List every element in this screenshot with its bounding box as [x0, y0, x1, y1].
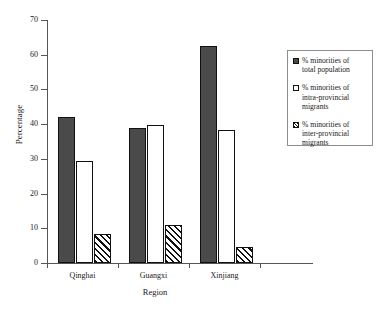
bar-xinjiang-series-3 [236, 247, 253, 263]
x-tick [118, 263, 119, 268]
y-tick-label: 40 [12, 120, 38, 128]
legend-item-intra-provincial: % minorities of intra-provincial migrant… [293, 83, 368, 111]
bar-qinghai-series-3 [94, 234, 111, 263]
x-tick-label: Qinghai [48, 271, 118, 280]
bar-xinjiang-series-1 [200, 46, 217, 263]
legend-swatch-solid-icon [293, 58, 299, 64]
legend-label: % minorities of inter-provincial migrant… [302, 120, 349, 148]
bar-qinghai-series-2 [76, 161, 93, 263]
legend-swatch-open-icon [293, 85, 299, 91]
legend-label: % minorities of intra-provincial migrant… [302, 83, 349, 111]
x-tick [47, 263, 48, 268]
x-axis-line [47, 263, 313, 264]
legend-label: % minorities of total population [302, 56, 350, 74]
plot-area [47, 20, 260, 263]
x-tick-label: Xinjiang [190, 271, 260, 280]
legend-swatch-hatched-icon [293, 122, 299, 128]
x-axis-title: Region [115, 288, 195, 297]
x-tick [260, 263, 261, 268]
legend-item-total-population: % minorities of total population [293, 56, 368, 74]
y-tick-label: 60 [12, 51, 38, 59]
bar-chart-figure: Percentage 010203040506070 QinghaiGuangx… [0, 0, 378, 311]
y-tick-label: 50 [12, 85, 38, 93]
bar-xinjiang-series-2 [218, 130, 235, 263]
bar-guangxi-series-2 [147, 125, 164, 263]
x-tick-label: Guangxi [119, 271, 189, 280]
legend: % minorities of total population % minor… [287, 50, 373, 146]
y-tick-label: 20 [12, 190, 38, 198]
bar-guangxi-series-3 [165, 225, 182, 263]
y-tick-label: 10 [12, 224, 38, 232]
bar-qinghai-series-1 [58, 117, 75, 263]
y-tick-label: 70 [12, 16, 38, 24]
x-tick [189, 263, 190, 268]
bar-guangxi-series-1 [129, 128, 146, 263]
legend-item-inter-provincial: % minorities of inter-provincial migrant… [293, 120, 368, 148]
y-tick-label: 30 [12, 155, 38, 163]
y-tick-label: 0 [12, 259, 38, 267]
